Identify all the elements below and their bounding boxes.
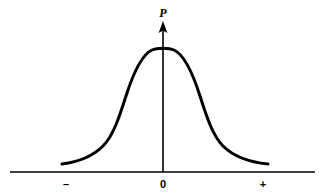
x-tick-label-minus: – [63, 178, 69, 190]
y-axis-title: P [159, 7, 166, 19]
figure-root: P – 0 + [0, 0, 327, 196]
x-tick-label-zero: 0 [160, 178, 166, 190]
x-tick-label-plus: + [260, 178, 266, 190]
probability-distribution-plot [0, 0, 327, 196]
gaussian-curve [62, 48, 268, 164]
